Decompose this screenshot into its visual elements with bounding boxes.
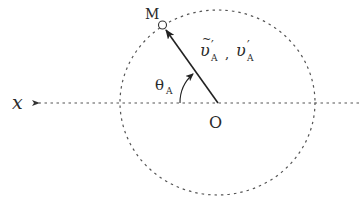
svg-text:A: A	[165, 86, 173, 96]
svg-text:′: ′	[211, 39, 214, 53]
origin-label: O	[209, 113, 222, 132]
angle-arc-arrow	[180, 74, 193, 103]
point-m-circle	[159, 21, 167, 29]
svg-text:υ: υ	[236, 41, 246, 60]
point-m-label: M	[145, 6, 159, 22]
svg-text:υ: υ	[200, 41, 210, 60]
x-axis-label: x	[12, 91, 23, 113]
svg-text:A: A	[210, 53, 218, 63]
vector-label: ~ υ ′ A , υ ′ A	[200, 33, 254, 63]
svg-text:′: ′	[247, 39, 250, 53]
svg-text:θ: θ	[155, 76, 164, 94]
svg-text:,: ,	[225, 46, 229, 61]
svg-text:A: A	[246, 53, 254, 63]
angle-label: θ A	[155, 76, 173, 96]
diagram-canvas: M O x θ A ~ υ ′ A , υ ′ A	[0, 0, 359, 210]
